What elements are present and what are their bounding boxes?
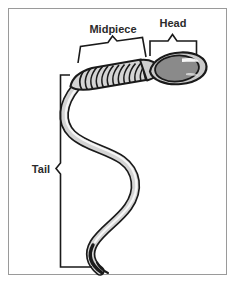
sperm-midpiece xyxy=(71,60,160,91)
sperm-head xyxy=(150,52,207,84)
figure-root: Midpiece Head Tail xyxy=(0,0,235,283)
tail-outline xyxy=(64,87,135,271)
midpiece-brace xyxy=(78,36,146,63)
label-tail: Tail xyxy=(32,163,50,175)
tail-body xyxy=(64,87,135,271)
sperm-tail xyxy=(64,87,136,273)
label-head: Head xyxy=(160,17,187,29)
sperm-cell-diagram: Midpiece Head Tail xyxy=(0,0,235,283)
label-midpiece: Midpiece xyxy=(89,23,136,35)
